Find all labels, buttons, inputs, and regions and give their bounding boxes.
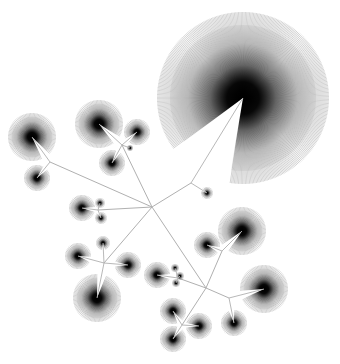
tree-edge xyxy=(152,183,191,207)
fan-node-D xyxy=(124,119,150,145)
tree-edge xyxy=(206,288,229,298)
tree-edge xyxy=(98,207,152,210)
tree-diagram-canvas xyxy=(0,0,340,364)
tree-edge xyxy=(122,145,152,207)
node-connector xyxy=(191,183,207,193)
tree-edge xyxy=(178,278,206,288)
tree-edge xyxy=(206,251,222,288)
nodes-layer xyxy=(8,12,329,352)
